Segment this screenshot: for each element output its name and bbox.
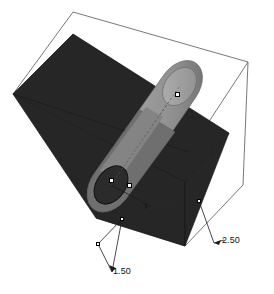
height-dimension-label[interactable]: 1.50 xyxy=(113,267,131,276)
leader-height-side xyxy=(112,219,122,272)
handle-dimension-node-upper[interactable] xyxy=(120,217,124,221)
handle-dimension-node-lower[interactable] xyxy=(96,242,100,246)
handle-cylinder-base-edge[interactable] xyxy=(127,183,132,188)
diameter-dimension-label[interactable]: Ø1.70 xyxy=(147,202,172,211)
3d-scene-canvas[interactable] xyxy=(0,0,274,294)
depth-dimension-label[interactable]: 2.50 xyxy=(222,236,240,245)
box-edge-vertical-right xyxy=(243,62,248,185)
handle-cylinder-base-center[interactable] xyxy=(109,178,114,183)
leader-depth-vertical xyxy=(199,201,214,243)
handle-cylinder-top[interactable] xyxy=(175,92,180,97)
leader-height-lower xyxy=(98,244,112,272)
handle-plane-right-edge[interactable] xyxy=(197,199,201,203)
3d-cad-viewport[interactable]: Ø1.70 2.50 1.50 xyxy=(0,0,274,294)
